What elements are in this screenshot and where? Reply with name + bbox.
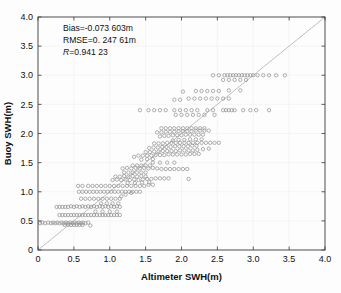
x-tick-label: 1.5 <box>139 254 152 264</box>
r-value: =0.941 23 <box>69 47 108 57</box>
y-tick-label: 2.0 <box>20 129 33 139</box>
x-tick-labels: 00.51.01.52.02.53.03.54.0 <box>35 254 331 264</box>
y-tick-label: 3.5 <box>20 41 33 51</box>
y-tick-labels: 00.51.01.52.02.53.03.54.0 <box>20 12 33 255</box>
y-tick-label: 3.0 <box>20 70 33 80</box>
y-tick-label: 1.5 <box>20 158 33 168</box>
y-tick-label: 0.5 <box>20 216 33 226</box>
x-axis-title: Altimeter SWH(m) <box>141 271 222 282</box>
x-tick-label: 1.0 <box>103 254 116 264</box>
y-tick-label: 4.0 <box>20 12 33 22</box>
x-tick-label: 2.5 <box>211 254 224 264</box>
bias-annotation: Bias=-0.073 603m <box>63 23 133 33</box>
y-tick-label: 0 <box>28 245 33 255</box>
x-tick-label: 4.0 <box>319 254 332 264</box>
x-tick-label: 3.0 <box>247 254 260 264</box>
correlation-annotation: R=0.941 23 <box>63 47 108 57</box>
y-tick-label: 2.5 <box>20 100 33 110</box>
scatter-plot-figure: 00.51.01.52.02.53.03.54.0 00.51.01.52.02… <box>0 0 341 293</box>
y-tick-label: 1.0 <box>20 187 33 197</box>
x-tick-label: 3.5 <box>283 254 296 264</box>
rmse-annotation: RMSE=0. 247 61m <box>63 35 136 45</box>
x-tick-label: 2.0 <box>175 254 188 264</box>
x-tick-label: 0 <box>35 254 40 264</box>
figure-background <box>0 0 341 293</box>
y-axis-title: Buoy SWH(m) <box>2 102 13 165</box>
plot-canvas: 00.51.01.52.02.53.03.54.0 00.51.01.52.02… <box>0 0 341 293</box>
x-tick-label: 0.5 <box>68 254 81 264</box>
